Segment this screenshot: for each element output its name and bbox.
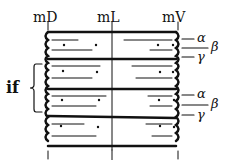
label-mV: mV [162,10,185,24]
label-beta-lower: β [211,97,219,110]
label-gamma-upper: γ [197,50,205,63]
label-beta-upper: β [211,40,219,53]
label-alpha-upper: α [197,31,206,44]
label-alpha-lower: α [197,87,206,100]
label-mD: mD [33,10,58,24]
label-gamma-lower: γ [197,108,205,121]
label-mL: mL [97,10,120,24]
label-if: if [6,80,19,96]
